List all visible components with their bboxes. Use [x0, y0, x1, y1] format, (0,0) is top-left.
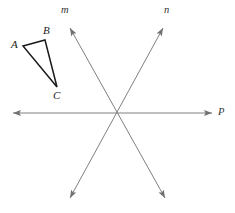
vertex-label-a: A — [11, 39, 18, 50]
geometry-figure: A B C P m n — [0, 0, 235, 213]
line-label-n: n — [164, 5, 169, 16]
line-label-m: m — [61, 5, 69, 16]
vertex-label-b: B — [43, 25, 50, 36]
concurrent-lines-group — [13, 28, 212, 198]
triangle-abc-group — [23, 40, 57, 87]
line-label-p: P — [218, 107, 224, 118]
diagram-canvas — [0, 0, 235, 213]
triangle-abc-outline — [23, 40, 57, 87]
vertex-label-c: C — [53, 90, 60, 101]
